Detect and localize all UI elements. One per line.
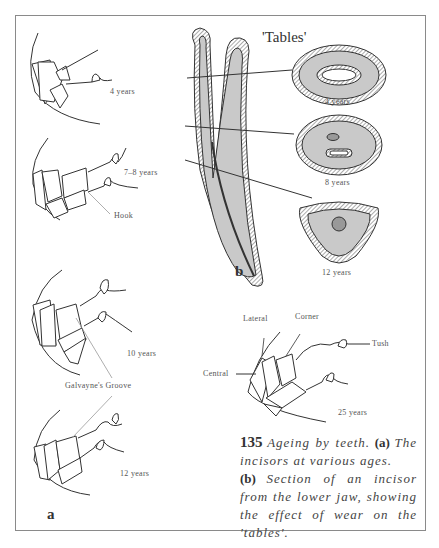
jaw-7-8-years [33, 138, 138, 220]
age-label-25-years: 25 years [338, 408, 367, 417]
tables-title: 'Tables' [262, 29, 306, 46]
panel-letter-b: b [235, 263, 243, 280]
table-label-8-years: 8 years [325, 178, 350, 187]
hook-label: Hook [114, 211, 133, 220]
tush-label: Tush [372, 339, 389, 348]
table-4-years [292, 45, 386, 105]
age-label-7-8-years: 7–8 years [124, 168, 158, 177]
panel-letter-a: a [47, 506, 55, 523]
figure-caption: 135 Ageing by teeth. (a) The incisors at… [240, 433, 417, 542]
caption-part-b-text: Section of an incisor from the lower jaw… [240, 471, 417, 540]
galvayne-groove-label: Galvayne's Groove [65, 381, 131, 390]
jaw-12-years [34, 396, 124, 495]
age-label-4-years: 4 years [110, 87, 135, 96]
table-label-4-years: 4 years [325, 97, 350, 106]
jaw-4-years [31, 33, 112, 124]
table-label-12-years: 12 years [322, 268, 351, 277]
age-label-12-years: 12 years [120, 469, 149, 478]
corner-label: Corner [295, 312, 319, 321]
age-label-10-years: 10 years [127, 349, 156, 358]
central-label: Central [203, 369, 229, 378]
jaw-10-years [32, 270, 132, 378]
table-12-years [299, 202, 378, 263]
caption-part-a-marker: (a) [375, 435, 390, 450]
figure-number: 135 [240, 434, 263, 450]
caption-lead: Ageing by teeth. [267, 435, 370, 450]
caption-part-b-marker: (b) [240, 471, 256, 486]
incisor-longitudinal-section [185, 28, 312, 286]
table-8-years [296, 115, 382, 175]
lateral-label: Lateral [243, 314, 268, 323]
